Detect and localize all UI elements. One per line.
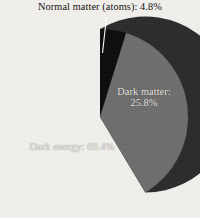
slice-label-dark-matter-line1: Dark matter: [100, 86, 188, 97]
slice-label-dark-matter: Dark matter: 25.8% [100, 86, 188, 109]
pie-chart-svg [0, 0, 200, 218]
slice-label-normal-matter: Normal matter (atoms): 4.8% [0, 1, 200, 13]
slice-label-dark-matter-line2: 25.8% [100, 97, 188, 108]
slice-label-dark-energy: Dark energy: 69.4% [12, 141, 132, 152]
pie-chart: Normal matter (atoms): 4.8% Dark matter:… [0, 0, 200, 218]
